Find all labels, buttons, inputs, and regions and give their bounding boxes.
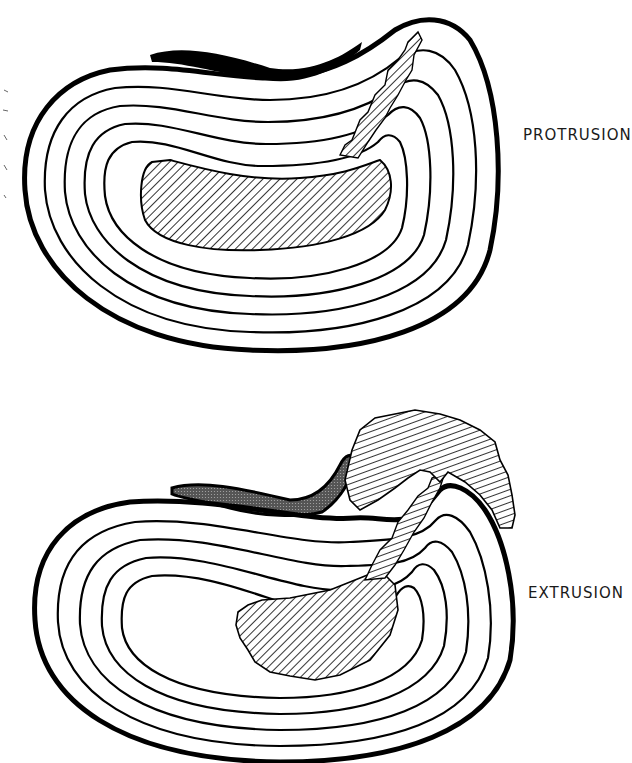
extrusion-label: EXTRUSION <box>528 584 624 602</box>
protrusion-label: PROTRUSION <box>523 126 632 144</box>
extrusion-diagram: EXTRUSION <box>0 400 625 763</box>
extrusion-disc-illustration <box>0 400 625 763</box>
protrusion-disc-illustration <box>0 0 625 370</box>
protrusion-diagram: PROTRUSION <box>0 0 625 370</box>
